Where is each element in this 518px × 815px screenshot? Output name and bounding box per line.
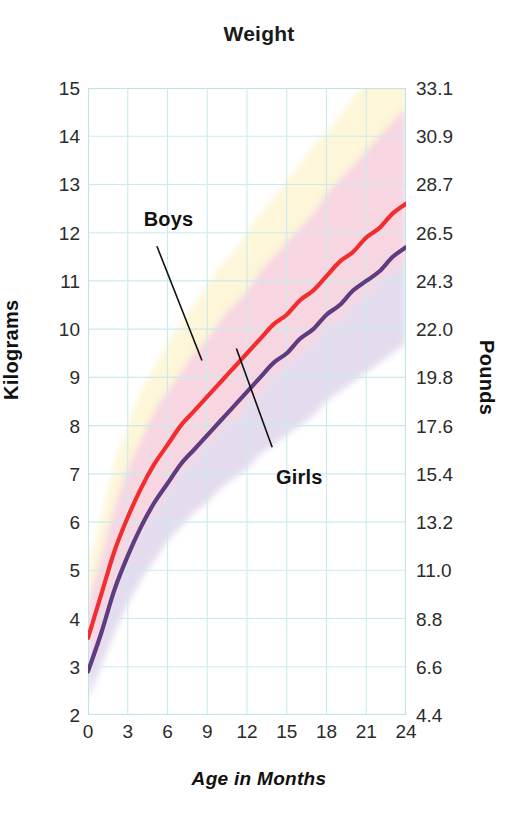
x-axis-title: Age in Months (0, 768, 518, 790)
y-axis-left-title: Kilograms (0, 299, 23, 400)
y-tick-label-lb: 19.8 (416, 368, 453, 387)
y-tick-label-lb: 13.2 (416, 513, 453, 532)
y-tick-label-kg: 13 (59, 175, 80, 194)
y-tick-label-kg: 3 (69, 657, 80, 676)
y-tick-label-kg: 12 (59, 223, 80, 242)
y-tick-label-kg: 14 (59, 127, 80, 146)
y-tick-label-lb: 11.0 (416, 561, 452, 580)
y-tick-label-lb: 8.8 (416, 609, 442, 628)
growth-chart: Weight 15141312111098765432 33.130.928.7… (0, 0, 518, 815)
y-axis-right-title: Pounds (475, 340, 498, 415)
x-tick-label-month: 12 (236, 722, 257, 741)
chart-title: Weight (0, 22, 518, 46)
y-tick-label-kg: 5 (69, 561, 80, 580)
x-tick-label-month: 6 (162, 722, 173, 741)
y-tick-label-lb: 24.3 (416, 271, 453, 290)
series-label-boys: Boys (144, 208, 194, 231)
y-tick-label-kg: 4 (69, 609, 80, 628)
y-tick-label-lb: 26.5 (416, 223, 453, 242)
y-tick-label-lb: 30.9 (416, 127, 453, 146)
x-tick-label-month: 21 (356, 722, 377, 741)
y-tick-label-lb: 6.6 (416, 657, 442, 676)
x-tick-label-month: 15 (276, 722, 297, 741)
series-label-girls: Girls (276, 466, 323, 489)
y-tick-label-kg: 10 (59, 320, 80, 339)
x-tick-label-month: 24 (395, 722, 416, 741)
y-tick-label-kg: 8 (69, 416, 80, 435)
x-tick-label-month: 0 (83, 722, 94, 741)
y-tick-label-kg: 7 (69, 464, 80, 483)
x-tick-label-month: 9 (202, 722, 213, 741)
y-tick-label-kg: 11 (60, 271, 80, 290)
y-tick-label-lb: 22.0 (416, 320, 453, 339)
y-tick-label-lb: 33.1 (416, 79, 453, 98)
plot-area (88, 88, 406, 715)
y-tick-label-lb: 17.6 (416, 416, 453, 435)
y-tick-label-kg: 9 (69, 368, 80, 387)
plot-canvas (88, 88, 406, 715)
x-tick-label-month: 18 (316, 722, 337, 741)
y-tick-label-lb: 28.7 (416, 175, 453, 194)
y-tick-label-lb: 15.4 (416, 464, 453, 483)
y-tick-label-lb: 4.4 (416, 706, 442, 725)
y-tick-label-kg: 2 (69, 706, 80, 725)
y-tick-label-kg: 6 (69, 513, 80, 532)
y-tick-label-kg: 15 (59, 79, 80, 98)
x-tick-label-month: 3 (122, 722, 133, 741)
